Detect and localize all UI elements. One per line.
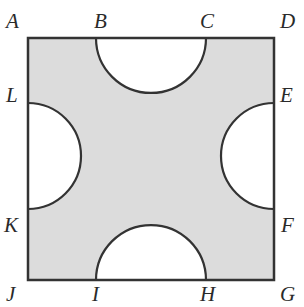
label-j: J — [6, 282, 17, 306]
label-e: E — [279, 83, 293, 107]
label-c: C — [200, 9, 215, 33]
label-a: A — [4, 9, 19, 33]
label-f: F — [280, 213, 294, 237]
shaded-region — [28, 38, 274, 280]
label-l: L — [5, 83, 18, 107]
label-i: I — [91, 282, 100, 306]
label-h: H — [199, 282, 217, 306]
label-g: G — [280, 282, 295, 306]
label-b: B — [94, 9, 107, 33]
geometry-diagram: A B C D L E K F J I H G — [0, 0, 304, 307]
label-d: D — [279, 9, 295, 33]
label-k: K — [3, 213, 19, 237]
